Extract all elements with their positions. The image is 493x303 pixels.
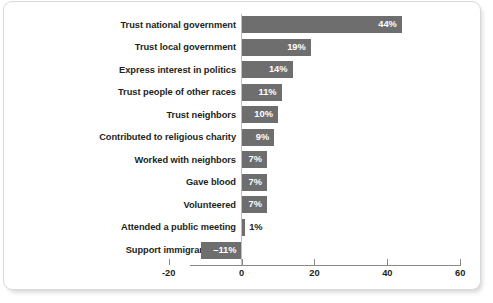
bar-series: 44%19%14%11%10%9%7%7%7%1%–11% — [0, 0, 493, 266]
x-axis-tick — [169, 259, 170, 265]
bar-value-label: 7% — [242, 151, 263, 168]
bar-value-label: 44% — [242, 16, 397, 33]
bar-value-label: 14% — [242, 61, 288, 78]
x-axis-tick — [242, 259, 243, 265]
bar-value-label: 19% — [242, 39, 306, 56]
bar-value-label: 10% — [242, 106, 273, 123]
bar-value-label: 1% — [249, 219, 262, 236]
x-axis-tick-label: -20 — [149, 268, 189, 278]
x-axis-tick-label: 20 — [294, 268, 334, 278]
x-axis-tick-label: 60 — [440, 268, 480, 278]
bar-value-label: 9% — [242, 129, 270, 146]
bar-value-label: 7% — [242, 174, 263, 191]
x-axis-tick — [387, 259, 388, 265]
bar-value-label: –11% — [201, 242, 236, 259]
x-axis-tick-label: 0 — [222, 268, 262, 278]
x-axis-line — [190, 265, 461, 266]
x-axis-tick — [314, 259, 315, 265]
bar-value-label: 7% — [242, 196, 263, 213]
bar — [242, 219, 246, 236]
bar-value-label: 11% — [242, 84, 277, 101]
x-axis-tick-label: 40 — [367, 268, 407, 278]
x-axis-tick — [460, 259, 461, 265]
bar-chart: Trust national governmentTrust local gov… — [0, 0, 493, 303]
